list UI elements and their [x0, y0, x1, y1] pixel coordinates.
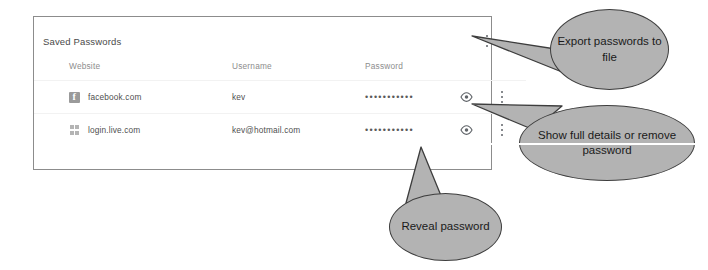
scanline-artifact [475, 143, 708, 145]
windows-favicon [69, 125, 80, 136]
cell-password: ••••••••••• [365, 114, 460, 147]
cell-password: ••••••••••• [365, 81, 460, 114]
password-mask: ••••••••••• [365, 92, 414, 102]
table-row[interactable]: login.live.com kev@hotmail.com •••••••••… [34, 114, 526, 147]
website-label: facebook.com [88, 92, 141, 102]
table-row[interactable]: facebook.com kev ••••••••••• [34, 81, 526, 114]
callout-reveal-password: Reveal password [389, 193, 502, 261]
column-header-password: Password [365, 61, 460, 81]
cell-username: kev@hotmail.com [232, 114, 365, 147]
cell-username: kev [232, 81, 365, 114]
password-mask: ••••••••••• [365, 125, 414, 135]
saved-passwords-table: Website Username Password facebook.com k… [34, 61, 526, 146]
cell-website: login.live.com [34, 114, 232, 147]
page-title: Saved Passwords [43, 36, 121, 47]
column-header-website: Website [34, 61, 232, 81]
three-dot-menu-icon [501, 91, 503, 93]
cell-website: facebook.com [34, 81, 232, 114]
three-dot-menu-icon [501, 96, 503, 98]
column-header-username: Username [232, 61, 365, 81]
website-label: login.live.com [88, 125, 140, 135]
facebook-favicon [69, 92, 80, 103]
callout-export-passwords: Export passwords to file [550, 9, 669, 90]
table-header-row: Website Username Password [34, 61, 526, 81]
